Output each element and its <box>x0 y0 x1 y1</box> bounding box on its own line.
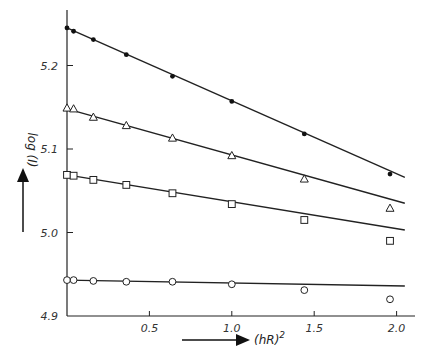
data-point-squares <box>123 182 130 189</box>
fit-line-circles <box>67 280 405 286</box>
data-point-circles <box>301 287 308 294</box>
y-tick-label: 5.0 <box>41 227 59 240</box>
axes <box>67 10 415 316</box>
data-point-circles <box>228 281 235 288</box>
data-point-circles <box>169 278 176 285</box>
data-point-filled-circles <box>388 172 393 177</box>
data-point-filled-circles <box>71 29 76 34</box>
data-point-squares <box>90 176 97 183</box>
x-tick-label: 0.5 <box>141 322 159 335</box>
y-axis-label: log (I) <box>25 132 39 167</box>
x-tick-label: 1.5 <box>305 322 323 335</box>
right-arrow-icon <box>236 334 250 346</box>
data-point-triangles <box>70 105 78 112</box>
data-point-squares <box>387 237 394 244</box>
fit-line-squares <box>67 175 405 230</box>
y-tick-label: 5.2 <box>41 60 59 73</box>
data-point-circles <box>70 277 77 284</box>
data-point-circles <box>64 277 71 284</box>
y-tick-label: 5.1 <box>41 143 59 156</box>
x-ticks: 0.51.01.52.0 <box>141 311 406 335</box>
y-axis-label-group: log (I) <box>17 132 39 232</box>
fit-lines <box>67 28 405 286</box>
data-point-circles <box>123 278 130 285</box>
x-axis-label: (hR)2 <box>254 330 285 347</box>
data-point-squares <box>301 217 308 224</box>
fit-line-filled-circles <box>67 28 405 177</box>
data-point-triangles <box>63 104 71 111</box>
x-tick-label: 2.0 <box>388 322 406 335</box>
data-point-filled-circles <box>229 99 234 104</box>
up-arrow-icon <box>17 168 29 182</box>
data-point-squares <box>64 171 71 178</box>
data-point-squares <box>169 190 176 197</box>
x-tick-label: 1.0 <box>223 322 241 335</box>
data-point-filled-circles <box>65 26 70 31</box>
data-point-triangles <box>386 204 394 211</box>
data-point-filled-circles <box>124 52 129 57</box>
data-point-circles <box>90 278 97 285</box>
data-points <box>63 26 394 303</box>
data-point-squares <box>228 201 235 208</box>
data-point-filled-circles <box>302 132 307 137</box>
data-point-filled-circles <box>170 74 175 79</box>
y-tick-label: 4.9 <box>41 310 59 323</box>
fit-line-triangles <box>67 109 405 203</box>
data-point-squares <box>70 172 77 179</box>
chart: 4.95.05.15.2 0.51.01.52.0 log (I) (hR)2 <box>0 0 425 355</box>
data-point-filled-circles <box>91 37 96 42</box>
data-point-circles <box>387 296 394 303</box>
